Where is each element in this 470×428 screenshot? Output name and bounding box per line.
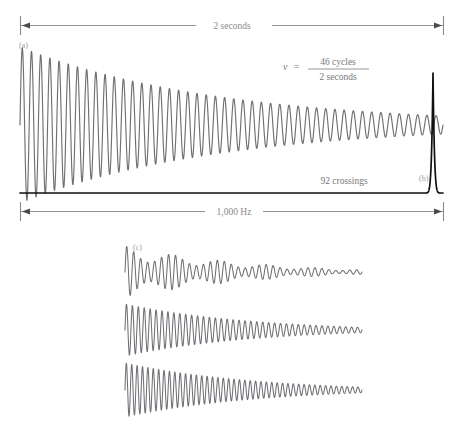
formula-variable: ν [283,61,288,72]
damped-waveform-trace-a [20,48,443,200]
damped-waveform-trace-c-3 [125,363,362,416]
top-bar-right-arrowhead [434,22,442,28]
formula-equals: = [294,62,299,72]
top-dimension-bar: 2 seconds [21,16,444,35]
panel-label-a: (a) [19,41,28,50]
panel-label-c: (c) [133,243,142,252]
damped-waveform-trace-c-2 [125,304,362,355]
panel-label-b: (b) [419,174,429,183]
bottom-bar-left-arrowhead [22,208,30,214]
bottom-dimension-bar: 1,000 Hz [21,202,444,221]
formula-denominator: 2 seconds [319,72,357,82]
physics-figure: 2 seconds (a) ν = 46 cycles 2 seconds 92… [0,0,470,428]
crossings-label: 92 crossings [320,176,368,186]
top-bar-left-arrowhead [22,22,30,28]
figure-container: 2 seconds (a) ν = 46 cycles 2 seconds 92… [0,0,470,428]
bottom-dimension-label: 1,000 Hz [217,207,252,217]
bottom-bar-right-arrowhead [434,208,442,214]
frequency-formula: ν = 46 cycles 2 seconds [283,57,369,82]
damped-waveform-trace-c-1 [125,247,362,296]
top-dimension-label: 2 seconds [213,21,251,31]
formula-numerator: 46 cycles [320,57,356,67]
